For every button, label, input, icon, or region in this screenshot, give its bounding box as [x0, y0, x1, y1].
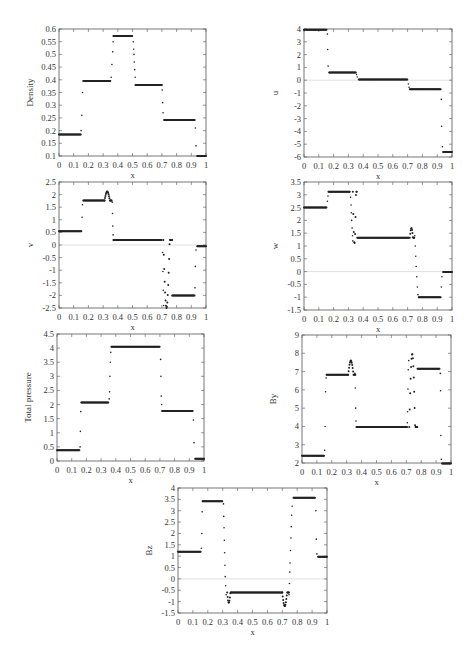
y-tick-label: 3	[171, 506, 175, 516]
y-tick-label: 0.35	[41, 88, 56, 98]
x-tick-label: 0	[302, 161, 306, 171]
x-tick-label: 0.4	[112, 160, 123, 170]
y-tick-label: 2	[297, 50, 301, 60]
y-tick-label: -5	[294, 139, 301, 149]
y-tick-label: -0.5	[288, 279, 301, 289]
x-axis-label: x	[376, 171, 381, 181]
x-tick-label: 0.1	[312, 467, 323, 477]
y-tick-label: 3.5	[290, 177, 301, 187]
y-tick-label: 0.5	[43, 442, 54, 452]
x-tick-label: 0.5	[371, 467, 382, 477]
y-tick-label: 0.5	[164, 563, 175, 573]
x-tick-label: 0.6	[262, 617, 273, 627]
y-axis-label: Total pressure	[23, 372, 33, 423]
y-tick-label: 2	[297, 215, 301, 225]
x-tick-label: 0.8	[171, 312, 182, 322]
x-tick-label: 0	[176, 617, 180, 627]
y-tick-label: 4	[297, 24, 302, 34]
y-tick-label: 0.45	[41, 62, 56, 72]
chart-v: 00.10.20.30.40.50.60.70.80.91-2.5-2-1.5-…	[25, 177, 208, 332]
y-tick-label: -1	[168, 597, 175, 607]
x-tick-label: 1	[449, 467, 453, 477]
y-tick-label: 3	[297, 37, 301, 47]
x-tick-label: 1	[204, 312, 208, 322]
y-tick-label: 2	[50, 400, 54, 410]
x-tick-label: 0.5	[125, 465, 136, 475]
x-tick-label: 0.7	[401, 467, 412, 477]
y-tick-label: 2.5	[290, 203, 301, 213]
x-tick-label: 0.9	[184, 465, 195, 475]
y-tick-label: 3	[295, 440, 299, 450]
x-tick-label: 0.5	[373, 161, 384, 171]
y-tick-label: 0.55	[41, 37, 56, 47]
x-tick-label: 1	[325, 617, 329, 627]
x-tick-label: 0.7	[402, 314, 413, 324]
x-tick-label: 0.9	[186, 312, 197, 322]
plot-frame	[59, 29, 206, 156]
x-tick-label: 0.2	[81, 465, 92, 475]
x-tick-label: 0.4	[358, 314, 369, 324]
y-axis-label: w	[270, 242, 280, 249]
plot-frame	[57, 334, 204, 461]
x-axis-label: x	[128, 475, 133, 485]
y-axis-label: By	[268, 393, 278, 404]
x-tick-label: 0.1	[68, 312, 79, 322]
y-tick-label: 0.5	[45, 49, 56, 59]
y-tick-label: -1	[294, 292, 301, 302]
y-tick-label: -6	[294, 152, 301, 162]
y-tick-label: -1	[49, 265, 56, 275]
x-tick-label: 0.2	[83, 160, 94, 170]
x-tick-label: 0.3	[98, 160, 109, 170]
y-tick-label: 1	[297, 241, 301, 251]
x-tick-label: 0.9	[431, 467, 442, 477]
x-tick-label: 0.2	[202, 617, 213, 627]
x-tick-label: 0.5	[127, 160, 138, 170]
x-tick-label: 0.3	[343, 314, 354, 324]
x-tick-label: 1	[450, 161, 454, 171]
x-tick-label: 0.2	[328, 314, 339, 324]
y-tick-label: 0.3	[45, 100, 56, 110]
x-tick-label: 0.5	[247, 617, 258, 627]
y-tick-label: 1	[50, 428, 54, 438]
y-tick-label: 1	[297, 62, 301, 72]
y-tick-label: -2	[294, 101, 301, 111]
plot-frame	[304, 182, 452, 310]
y-tick-label: 2	[52, 190, 56, 200]
y-tick-label: 4	[171, 483, 176, 493]
y-tick-label: 2.5	[43, 385, 54, 395]
x-tick-label: 0.7	[402, 161, 413, 171]
data-series	[303, 29, 453, 153]
y-tick-label: 2	[171, 528, 175, 538]
y-tick-label: 1	[171, 551, 175, 561]
x-tick-label: 0.9	[432, 161, 443, 171]
x-tick-label: 0.5	[127, 312, 138, 322]
chart-w: 00.10.20.30.40.50.60.70.80.91-1.5-1-0.50…	[270, 177, 454, 334]
x-axis-label: x	[130, 170, 135, 180]
x-tick-label: 0.8	[171, 160, 182, 170]
x-tick-label: 0.4	[110, 465, 121, 475]
y-tick-label: 3	[297, 190, 301, 200]
y-axis-label: v	[25, 242, 35, 247]
y-tick-label: 1.5	[45, 202, 56, 212]
x-tick-label: 0.9	[186, 160, 197, 170]
y-tick-label: 0.2	[45, 126, 56, 136]
x-tick-label: 0.6	[142, 160, 153, 170]
x-tick-label: 0	[57, 160, 61, 170]
y-tick-label: 0.5	[45, 227, 56, 237]
chart-u: 00.10.20.30.40.50.60.70.80.91-6-5-4-3-2-…	[270, 24, 454, 181]
x-tick-label: 0.2	[328, 161, 339, 171]
y-tick-label: 3.5	[164, 494, 175, 504]
x-tick-label: 0.6	[387, 161, 398, 171]
y-tick-label: 2.5	[164, 517, 175, 527]
x-tick-label: 0.9	[432, 314, 443, 324]
y-tick-label: -1.5	[162, 608, 175, 618]
x-axis-label: x	[130, 322, 135, 332]
y-tick-label: 0	[171, 574, 175, 584]
x-tick-label: 0	[302, 314, 306, 324]
chart-density: 00.10.20.30.40.50.60.70.80.910.10.150.20…	[25, 24, 208, 180]
x-tick-label: 0.7	[157, 312, 168, 322]
x-tick-label: 0.1	[313, 161, 324, 171]
plot-frame	[304, 29, 452, 157]
y-tick-label: 7	[295, 367, 299, 377]
x-tick-label: 0	[55, 465, 59, 475]
